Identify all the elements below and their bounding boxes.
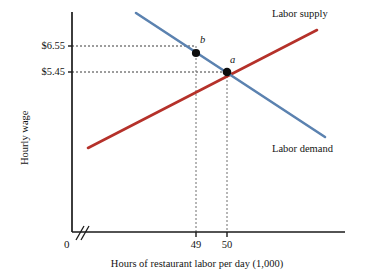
data-point-label-a: a — [230, 55, 235, 66]
y-tick-label-545: $5.45 — [18, 67, 65, 78]
y-axis-title: Hourly wage — [20, 110, 31, 165]
x-tick-label-50: 50 — [213, 240, 241, 251]
labor-supply-curve — [88, 30, 317, 148]
labor-demand-curve — [136, 13, 325, 137]
labor-demand-label: Labor demand — [272, 144, 333, 155]
data-point-label-b: b — [200, 35, 205, 46]
x-axis-title: Hours of restaurant labor per day (1,000… — [92, 259, 302, 270]
data-point-a — [223, 68, 232, 77]
labor-market-chart: $6.55 $5.45 49 50 0 b a Labor supply Lab… — [0, 0, 372, 277]
labor-supply-label: Labor supply — [272, 9, 328, 20]
y-tick-label-655: $6.55 — [18, 41, 65, 52]
origin-label: 0 — [64, 239, 70, 250]
x-tick-label-49: 49 — [182, 240, 210, 251]
data-point-b — [192, 49, 200, 57]
